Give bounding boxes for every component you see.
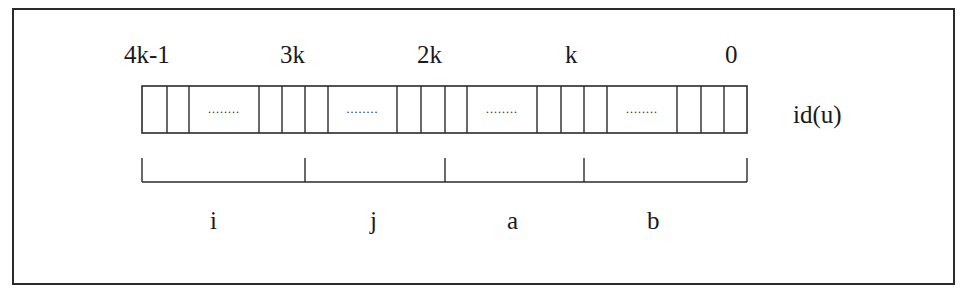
ellipsis: ........ [626, 102, 658, 116]
bit-label-2k: 2k [417, 42, 442, 67]
ellipsis: ........ [347, 102, 379, 116]
field-label-b: b [647, 208, 660, 233]
bit-label-0: 0 [725, 42, 738, 67]
bit-label-4k-1: 4k-1 [124, 42, 170, 67]
field-label-a: a [507, 208, 518, 233]
field-label-i: i [210, 208, 217, 233]
bit-label-3k: 3k [280, 42, 305, 67]
bit-label-k: k [565, 42, 578, 67]
ellipsis: ........ [208, 102, 240, 116]
register-label: id(u) [793, 102, 842, 127]
field-label-j: j [370, 208, 377, 233]
ellipsis: ........ [486, 102, 518, 116]
